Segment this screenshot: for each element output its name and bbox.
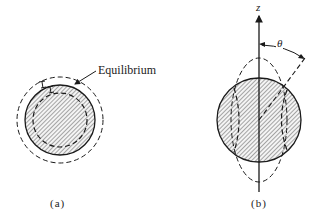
theta-arrow-left [259,42,265,47]
panel-b [217,16,305,192]
z-axis-label: z [256,2,260,13]
diagram-canvas [0,0,315,221]
caption-a: (a) [50,198,65,209]
equilibrium-leader-line [75,71,96,84]
theta-arrow-right [298,54,305,59]
displacement-marker-outer [39,81,46,88]
equilibrium-label: Equilibrium [98,64,156,76]
caption-b: (b) [251,198,267,209]
theta-label: θ [276,38,283,49]
panel-a [17,71,103,163]
sphere-equilibrium [25,85,95,155]
